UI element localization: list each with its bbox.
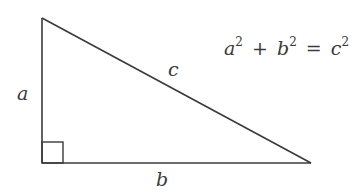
equation-term-b: b <box>277 37 289 59</box>
label-c: c <box>168 60 179 79</box>
label-b: b <box>156 170 168 189</box>
equation-plus: + <box>249 37 271 59</box>
equation-equals: = <box>303 37 325 59</box>
pythagorean-equation: a2 + b2 = c2 <box>224 36 349 58</box>
equation-term-a: a <box>224 37 235 59</box>
equation-term-c: c <box>331 37 342 59</box>
equation-exponent-c: 2 <box>341 35 349 49</box>
right-angle-marker <box>42 142 63 163</box>
label-a: a <box>17 84 28 103</box>
equation-exponent-a: 2 <box>235 35 243 49</box>
equation-exponent-b: 2 <box>289 35 297 49</box>
right-triangle-diagram <box>0 0 357 195</box>
